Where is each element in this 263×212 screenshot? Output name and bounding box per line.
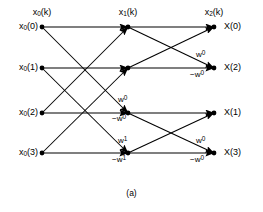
weight-label-w2-top-exp: 0 [202,49,206,56]
fft-signal-flow-figure: x0(k) x1(k) x2(k) x0(0) x0(1) x0(2) x0(3… [0,0,263,212]
weight-label-w1-stage1-bottom-exp: 1 [124,135,128,142]
output-label-X0: X(0) [224,22,241,31]
weight-label-w1-stage1-neg: −w0 [112,114,126,123]
weight-label-w2-topneg: −w0 [190,70,204,79]
weight-label-w1-stage1-negbot-exp: 1 [122,154,126,161]
weight-label-w2-botneg-exp: 0 [200,154,204,161]
output-label-X3: X(3) [224,148,241,157]
node-n1-2 [126,111,131,116]
weight-label-w2-botneg-base: −w [190,155,200,164]
weight-label-w1-stage1-neg-exp: 0 [122,113,126,120]
column-header-stage0: x0(k) [22,8,62,18]
node-n2-3 [212,151,217,156]
column-header-stage2: x2(k) [194,8,234,18]
stage1-edges [42,27,128,153]
column-header-stage0-arg: (k) [41,7,52,17]
input-label-x0-1: x0(1) [0,63,38,73]
weight-label-w1-stage1-negbot-base: −w [112,155,122,164]
weight-label-w2-bot-exp: 0 [202,135,206,142]
weight-label-w1-stage1-negbot: −w1 [112,155,126,164]
weight-label-w1-stage1-neg-base: −w [112,114,122,123]
output-label-X1: X(1) [224,108,241,117]
input-label-x0-2-arg: (2) [27,107,38,117]
signal-flow-graph [0,0,263,212]
weight-label-w1-stage1-top-exp: 0 [124,94,128,101]
figure-caption: (a) [0,188,263,198]
node-n0-2 [40,111,45,116]
weight-label-w2-top: w0 [196,50,205,59]
node-n0-3 [40,151,45,156]
output-label-X2: X(2) [224,63,241,72]
weight-label-w2-botneg: −w0 [190,155,204,164]
weight-label-w1-stage1-bottom: w1 [118,136,127,145]
weight-label-w2-topneg-base: −w [190,70,200,79]
weight-label-w1-stage1-top: w0 [118,95,127,104]
input-label-x0-1-arg: (1) [27,62,38,72]
column-header-stage2-arg: (k) [213,7,224,17]
node-n1-1 [126,66,131,71]
weight-label-w2-topneg-exp: 0 [200,69,204,76]
column-header-stage1-arg: (k) [127,7,138,17]
node-n2-2 [212,111,217,116]
graph-nodes [40,25,217,156]
input-label-x0-0: x0(0) [0,22,38,32]
node-n1-0 [126,25,131,30]
node-n0-1 [40,66,45,71]
node-n2-1 [212,66,217,71]
input-label-x0-3-arg: (3) [27,147,38,157]
input-label-x0-2: x0(2) [0,108,38,118]
node-n1-3 [126,151,131,156]
input-label-x0-3: x0(3) [0,148,38,158]
column-header-stage1: x1(k) [108,8,148,18]
weight-label-w2-bot: w0 [196,136,205,145]
node-n0-0 [40,25,45,30]
input-label-x0-0-arg: (0) [27,21,38,31]
node-n2-0 [212,25,217,30]
